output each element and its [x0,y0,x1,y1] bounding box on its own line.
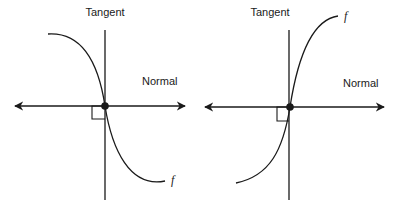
point-of-tangency [101,102,109,110]
tangent-label: Tangent [250,6,289,18]
left-panel: Tangent Normal f [15,6,185,200]
function-label: f [344,9,349,23]
normal-label: Normal [343,77,378,89]
function-label: f [171,173,176,187]
normal-label: Normal [142,75,177,87]
right-panel: Tangent Normal f [205,6,384,200]
tangent-label: Tangent [85,6,124,18]
function-curve [236,16,338,183]
point-of-tangency [286,103,294,111]
tangent-normal-diagram: Tangent Normal f Tangent Normal f [0,0,393,204]
